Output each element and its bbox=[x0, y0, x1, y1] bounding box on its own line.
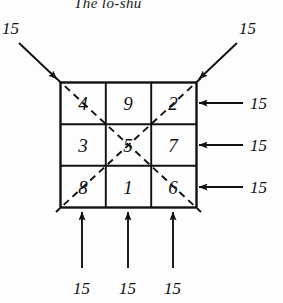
grid-cell-r1c2: 9 bbox=[123, 94, 133, 113]
label-bottom-col-2: 15 bbox=[119, 280, 136, 297]
grid-cell-r3c3: 6 bbox=[168, 178, 178, 197]
diagonal-arrow-top-right bbox=[199, 43, 237, 79]
label-bottom-col-3: 15 bbox=[164, 280, 181, 297]
label-bottom-col-1: 15 bbox=[73, 280, 90, 297]
grid-cell-r2c3: 7 bbox=[168, 136, 178, 155]
lo-shu-figure: The lo-shu bbox=[0, 0, 283, 303]
grid-cell-r3c1: 8 bbox=[78, 178, 88, 197]
grid-cell-r2c2: 5 bbox=[123, 136, 133, 155]
label-right-row-1: 15 bbox=[250, 95, 267, 112]
label-top-right-diagonal: 15 bbox=[239, 20, 256, 37]
diagonal-arrow-top-left bbox=[19, 43, 57, 79]
grid-cell-r3c2: 1 bbox=[123, 178, 133, 197]
label-right-row-3: 15 bbox=[250, 179, 267, 196]
grid-cell-r1c1: 4 bbox=[78, 94, 88, 113]
figure-graphics bbox=[0, 0, 283, 303]
label-right-row-2: 15 bbox=[250, 137, 267, 154]
label-top-left-diagonal: 15 bbox=[2, 20, 19, 37]
grid-cell-r1c3: 2 bbox=[168, 94, 178, 113]
grid-cell-r2c1: 3 bbox=[78, 136, 88, 155]
